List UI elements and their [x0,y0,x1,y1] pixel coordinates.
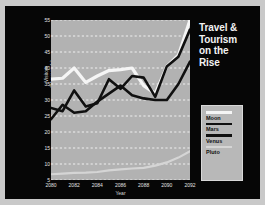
legend-label: Mars [206,126,238,132]
series-line-moon [51,20,190,94]
y-axis-ticks: 510152025303540455055 [29,20,50,180]
x-tick-label: 2092 [179,182,201,188]
slide-canvas: Travel & Tourism on the Rise Visitors (T… [5,6,260,199]
legend-swatch-pluto [206,146,232,149]
legend-item-venus[interactable]: Venus [206,134,238,144]
x-tick-label: 2082 [63,182,85,188]
y-tick-label: 50 [32,34,50,39]
y-tick-label: 35 [32,82,50,87]
x-tick-label: 2088 [133,182,155,188]
legend-item-moon[interactable]: Moon [206,111,238,121]
y-tick-label: 15 [32,146,50,151]
x-axis-label: Year [51,190,190,196]
title-line-2: Tourism [199,34,260,46]
y-tick-label: 55 [32,18,50,23]
legend-swatch-venus [206,134,232,137]
x-tick-label: 2086 [110,182,132,188]
y-tick-label: 10 [32,162,50,167]
y-tick-label: 40 [32,66,50,71]
chart-svg [51,20,190,180]
legend-label: Pluto [206,149,238,155]
x-tick-label: 2080 [40,182,62,188]
y-tick-label: 20 [32,130,50,135]
title-line-3: on the [199,45,260,57]
title-line-4: Rise [199,57,260,69]
legend-item-pluto[interactable]: Pluto [206,146,238,156]
x-tick-label: 2090 [156,182,178,188]
y-tick-label: 45 [32,50,50,55]
x-tick-label: 2084 [86,182,108,188]
x-axis-ticks: 2080208220842086208820902092 [51,182,190,190]
page-title: Travel & Tourism on the Rise [199,22,260,68]
title-line-1: Travel & [199,22,260,34]
legend-swatch-moon [206,111,232,114]
plot-area [51,20,190,180]
plot-inner [51,20,190,180]
slide-frame: Travel & Tourism on the Rise Visitors (T… [0,0,265,205]
legend-entries: MoonMarsVenusPluto [202,106,242,155]
y-tick-label: 25 [32,114,50,119]
legend-label: Venus [206,138,238,144]
y-tick-label: 30 [32,98,50,103]
legend-item-mars[interactable]: Mars [206,123,238,133]
series-line-pluto [51,151,190,174]
legend-label: Moon [206,115,238,121]
legend-swatch-mars [206,123,232,126]
chart-legend: MoonMarsVenusPluto [201,105,243,181]
